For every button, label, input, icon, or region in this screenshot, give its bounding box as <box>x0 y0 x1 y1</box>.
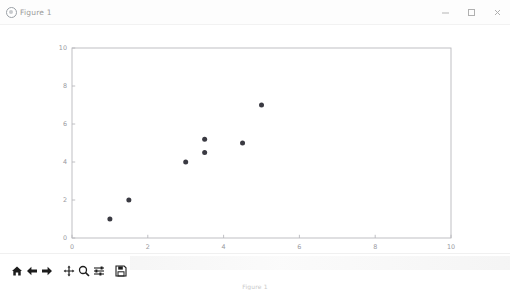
scatter-plot[interactable]: 02468100246810 <box>0 25 510 253</box>
sliders-icon[interactable] <box>91 263 106 280</box>
move-cross-icon[interactable] <box>61 263 76 280</box>
data-point <box>107 217 112 222</box>
y-tick-label: 2 <box>63 196 67 204</box>
x-tick-label: 2 <box>146 243 150 251</box>
data-point <box>202 137 207 142</box>
window-titlebar[interactable]: Figure 1 <box>0 0 510 25</box>
close-icon[interactable] <box>484 0 510 24</box>
y-tick-label: 10 <box>59 44 67 52</box>
x-tick-label: 10 <box>447 243 455 251</box>
data-point <box>240 141 245 146</box>
data-point <box>183 160 188 165</box>
data-point <box>259 103 264 108</box>
file-group <box>113 263 128 280</box>
page-caption: Figure 1 <box>0 283 510 290</box>
nav-group <box>9 263 54 280</box>
home-icon[interactable] <box>9 263 24 280</box>
data-point <box>202 150 207 155</box>
arrow-right-icon[interactable] <box>39 263 54 280</box>
x-tick-label: 8 <box>373 243 377 251</box>
window-controls <box>432 0 510 24</box>
minimize-icon[interactable] <box>432 0 458 24</box>
toolbar-separator-2 <box>106 271 113 272</box>
toolbar-separator-1 <box>54 271 61 272</box>
figure-canvas-area[interactable]: 02468100246810 <box>0 25 510 253</box>
x-tick-label: 6 <box>297 243 301 251</box>
y-tick-label: 0 <box>63 234 67 242</box>
figure-icon <box>6 7 17 18</box>
window-title: Figure 1 <box>20 8 52 17</box>
window-title-group: Figure 1 <box>0 7 52 18</box>
floppy-disk-icon[interactable] <box>113 263 128 280</box>
plot-svg: 02468100246810 <box>0 25 510 253</box>
x-tick-label: 0 <box>70 243 74 251</box>
magnifier-icon[interactable] <box>76 263 91 280</box>
y-tick-label: 8 <box>63 82 67 90</box>
data-point <box>126 198 131 203</box>
arrow-left-icon[interactable] <box>24 263 39 280</box>
y-tick-label: 4 <box>63 158 67 166</box>
axes-frame <box>72 48 451 238</box>
y-tick-label: 6 <box>63 120 67 128</box>
tools-group <box>61 263 106 280</box>
x-tick-label: 4 <box>222 243 226 251</box>
maximize-icon[interactable] <box>458 0 484 24</box>
